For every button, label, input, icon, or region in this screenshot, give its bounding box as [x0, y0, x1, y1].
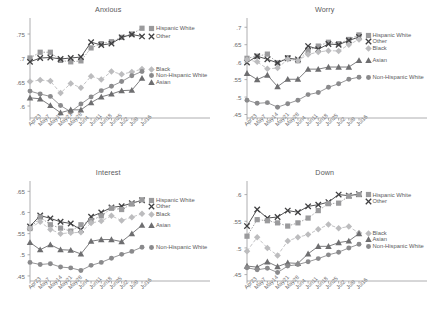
legend-marker-asian [148, 222, 155, 229]
data-point-hispanic_white [78, 222, 83, 227]
data-point-non_hispanic_white [244, 98, 249, 103]
legend-entry-asian: Asian [365, 57, 388, 64]
data-point-non_hispanic_white [336, 250, 341, 255]
legend-label: Hispanic White [156, 25, 195, 31]
series-line-hispanic_white [30, 28, 142, 62]
legend-label: Black [373, 45, 387, 51]
data-point-asian [139, 222, 146, 228]
data-point-black [325, 47, 332, 54]
series-line-black [30, 69, 142, 93]
data-point-hispanic_white [295, 220, 300, 225]
legend-label: Asian [156, 222, 171, 228]
legend-marker-non_hispanic_white [148, 244, 155, 251]
data-point-black [325, 221, 332, 228]
legend-label: Asian [156, 79, 171, 85]
data-point-hispanic_white [139, 197, 144, 202]
series-line-asian [30, 225, 142, 254]
data-point-black [37, 77, 44, 84]
legend-entry-other: Other [365, 198, 388, 205]
data-point-black [264, 66, 271, 73]
data-point-black [108, 68, 115, 75]
legend-label: Other [373, 38, 388, 44]
data-point-asian [304, 251, 311, 257]
data-point-non_hispanic_white [89, 94, 94, 99]
data-point-non_hispanic_white [315, 90, 320, 95]
data-point-non_hispanic_white [28, 89, 33, 94]
data-point-black [304, 231, 311, 238]
data-point-hispanic_white [99, 213, 104, 218]
data-point-black [253, 234, 260, 241]
data-point-hispanic_white [88, 45, 93, 50]
legend-marker-other [148, 33, 155, 40]
legend-label: Black [156, 211, 170, 217]
legend-entry-hispanic_white: Hispanic White [148, 25, 195, 32]
series-line-black [247, 39, 359, 68]
legend-label: Other [156, 33, 171, 39]
data-point-non_hispanic_white [48, 261, 53, 266]
legend-label: Hispanic White [156, 197, 195, 203]
data-point-non_hispanic_white [119, 252, 124, 257]
data-point-asian [27, 239, 34, 245]
data-point-black [335, 225, 342, 232]
data-point-non_hispanic_white [129, 249, 134, 254]
data-point-hispanic_white [244, 234, 249, 239]
data-point-black [253, 59, 260, 66]
data-point-non_hispanic_white [356, 75, 361, 80]
data-point-black [118, 217, 125, 224]
data-point-non_hispanic_white [109, 84, 114, 89]
data-point-non_hispanic_white [68, 265, 73, 270]
data-point-non_hispanic_white [264, 266, 269, 271]
legend-label: Black [156, 66, 170, 72]
data-point-hispanic_white [285, 223, 290, 228]
data-point-non_hispanic_white [109, 256, 114, 261]
data-point-black [243, 248, 250, 255]
data-point-black [345, 223, 352, 230]
legend-label: Non-Hispanic White [156, 72, 207, 78]
data-point-non_hispanic_white [285, 101, 290, 106]
legend-label: Other [156, 203, 171, 209]
data-point-non_hispanic_white [140, 69, 145, 74]
data-point-non_hispanic_white [38, 262, 43, 267]
legend-label: Hispanic White [373, 192, 412, 198]
data-point-black [27, 78, 34, 85]
plot-area [217, 0, 433, 163]
legend-entry-other: Other [148, 203, 171, 210]
data-point-asian [274, 263, 281, 269]
data-point-non_hispanic_white [244, 265, 249, 270]
data-point-non_hispanic_white [275, 105, 280, 110]
legend-entry-asian: Asian [148, 79, 171, 86]
data-point-non_hispanic_white [325, 252, 330, 257]
data-point-hispanic_white [264, 218, 269, 223]
data-point-black [78, 229, 85, 236]
series-line-other [247, 37, 359, 63]
data-point-hispanic_white [48, 50, 53, 55]
series-line-other [247, 194, 359, 226]
legend-label: Non-Hispanic White [156, 244, 207, 250]
data-point-hispanic_white [356, 192, 361, 197]
data-point-hispanic_white [336, 201, 341, 206]
legend-label: Non-Hispanic White [373, 243, 424, 249]
data-point-other [305, 43, 310, 48]
legend-entry-black: Black [365, 45, 387, 52]
series-line-non_hispanic_white [247, 77, 359, 107]
data-point-asian [88, 99, 95, 105]
legend-entry-non_hispanic_white: Non-Hispanic White [365, 74, 424, 81]
data-point-non_hispanic_white [285, 264, 290, 269]
data-point-hispanic_white [139, 26, 144, 31]
data-point-non_hispanic_white [325, 85, 330, 90]
data-point-hispanic_white [346, 194, 351, 199]
data-point-non_hispanic_white [254, 267, 259, 272]
data-point-non_hispanic_white [336, 81, 341, 86]
data-point-black [274, 252, 281, 259]
data-point-asian [253, 76, 260, 82]
data-point-asian [139, 75, 146, 81]
data-point-hispanic_white [58, 226, 63, 231]
data-point-non_hispanic_white [28, 260, 33, 265]
legend-entry-non_hispanic_white: Non-Hispanic White [365, 243, 424, 250]
data-point-hispanic_white [274, 220, 279, 225]
panel-interest: Interest.45.5.55.6.65Apr23May7May14May21… [0, 163, 217, 326]
panel-worry: Worry.45.5.55.6.65.7Apr23May7May14May21M… [217, 0, 433, 163]
data-point-non_hispanic_white [58, 265, 63, 270]
data-point-other [264, 57, 269, 62]
data-point-black [139, 211, 146, 218]
